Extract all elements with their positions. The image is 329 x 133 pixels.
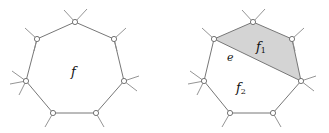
vertex — [289, 36, 294, 41]
diagram-canvas: f f1 e f2 — [0, 0, 329, 133]
vertex — [250, 19, 255, 24]
vertex — [121, 78, 126, 83]
vertex — [23, 78, 28, 83]
face-label-f: f — [70, 64, 78, 79]
vertex — [298, 78, 303, 83]
vertex — [211, 36, 216, 41]
vertex — [270, 110, 275, 115]
edge-label-e: e — [227, 51, 234, 64]
vertex — [34, 36, 39, 41]
right-heptagon: f1 e f2 — [188, 9, 316, 127]
vertex — [50, 110, 55, 115]
vertex — [111, 36, 116, 41]
vertex — [227, 110, 232, 115]
face-label-f2: f2 — [235, 80, 246, 96]
vertex — [201, 78, 206, 83]
vertex — [93, 110, 98, 115]
left-heptagon: f — [10, 9, 139, 127]
vertex — [72, 19, 77, 24]
